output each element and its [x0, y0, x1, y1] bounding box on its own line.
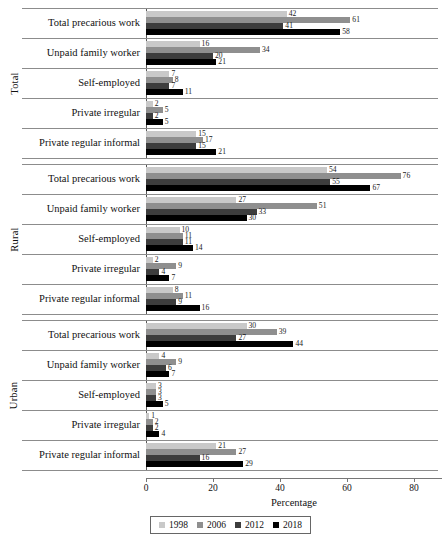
bar-2018 — [146, 59, 216, 65]
legend-item-2012[interactable]: 2012 — [235, 520, 264, 530]
bar-line: 7 — [146, 371, 442, 377]
bar-value-label: 5 — [165, 118, 169, 126]
bar-2018 — [146, 119, 163, 125]
x-axis-title: Percentage — [146, 497, 442, 508]
bar-group: 3335 — [146, 383, 442, 407]
bar-line: 21 — [146, 149, 442, 155]
legend-swatch-icon — [197, 522, 203, 528]
bar-group: 4967 — [146, 353, 442, 377]
row-separator — [22, 158, 438, 159]
row-plot-area: 2525 — [146, 98, 442, 128]
category-label: Total precarious work — [0, 174, 140, 185]
bar-2018 — [146, 275, 169, 281]
legend-label: 2018 — [283, 520, 302, 530]
bar-value-label: 7 — [171, 370, 175, 378]
panel-rural: RuralTotal precarious work54765567Unpaid… — [0, 164, 444, 314]
axis-tick-label: 0 — [144, 483, 149, 493]
legend-item-2006[interactable]: 2006 — [197, 520, 226, 530]
bar-group: 1224 — [146, 413, 442, 437]
legend-swatch-icon — [235, 522, 241, 528]
row-plot-area: 4967 — [146, 350, 442, 380]
chart-row: Total precarious work42614158 — [0, 8, 444, 38]
bar-value-label: 11 — [185, 88, 192, 96]
bar-group: 811916 — [146, 287, 442, 311]
axis-tick-label: 60 — [342, 483, 352, 493]
category-label: Private regular informal — [0, 138, 140, 149]
bar-2018 — [146, 245, 193, 251]
bar-value-label: 44 — [295, 340, 303, 348]
bar-2018 — [146, 401, 163, 407]
axis-tick-label: 80 — [409, 483, 419, 493]
bar-value-label: 5 — [165, 400, 169, 408]
legend-label: 2006 — [207, 520, 226, 530]
chart-row: Private irregular2525 — [0, 98, 444, 128]
bar-line: 7 — [146, 275, 442, 281]
legend-label: 2012 — [245, 520, 264, 530]
bar-group: 78711 — [146, 71, 442, 95]
bar-value-label: 21 — [218, 148, 226, 156]
bar-2018 — [146, 185, 370, 191]
chart-row: Private regular informal21271629 — [0, 440, 444, 470]
bar-2018 — [146, 371, 169, 377]
row-plot-area: 15171521 — [146, 128, 442, 158]
bar-group: 10111114 — [146, 227, 442, 251]
bar-line: 58 — [146, 29, 442, 35]
chart-row: Self-employed10111114 — [0, 224, 444, 254]
bar-2018 — [146, 305, 200, 311]
bar-group: 21271629 — [146, 443, 442, 467]
category-label: Self-employed — [0, 234, 140, 245]
axis-tick-label: 40 — [275, 483, 285, 493]
bar-line: 21 — [146, 59, 442, 65]
bar-group: 30392744 — [146, 323, 442, 347]
category-label: Self-employed — [0, 78, 140, 89]
row-plot-area: 2947 — [146, 254, 442, 284]
chart-row: Private regular informal15171521 — [0, 128, 444, 158]
row-plot-area: 30392744 — [146, 320, 442, 350]
row-plot-area: 16342021 — [146, 38, 442, 68]
category-label: Private irregular — [0, 264, 140, 275]
row-plot-area: 21271629 — [146, 440, 442, 470]
row-plot-area: 3335 — [146, 380, 442, 410]
bar-value-label: 29 — [245, 460, 253, 468]
bar-value-label: 30 — [249, 214, 257, 222]
row-plot-area: 1224 — [146, 410, 442, 440]
category-label: Total precarious work — [0, 18, 140, 29]
bar-value-label: 21 — [218, 58, 226, 66]
row-plot-area: 811916 — [146, 284, 442, 314]
chart-row: Self-employed78711 — [0, 68, 444, 98]
category-label: Private regular informal — [0, 294, 140, 305]
chart-row: Private irregular2947 — [0, 254, 444, 284]
bar-value-label: 4 — [161, 430, 165, 438]
bar-line: 30 — [146, 215, 442, 221]
axis-tick — [280, 478, 281, 482]
bar-2018 — [146, 431, 159, 437]
chart-row: Total precarious work54765567 — [0, 164, 444, 194]
row-separator — [22, 470, 438, 471]
bar-group: 2947 — [146, 257, 442, 281]
chart-row: Unpaid family worker27513330 — [0, 194, 444, 224]
category-label: Private irregular — [0, 108, 140, 119]
chart-row: Private irregular1224 — [0, 410, 444, 440]
panel-total: TotalTotal precarious work42614158Unpaid… — [0, 8, 444, 158]
row-plot-area: 54765567 — [146, 164, 442, 194]
bar-line: 11 — [146, 89, 442, 95]
category-label: Self-employed — [0, 390, 140, 401]
legend-item-1998[interactable]: 1998 — [159, 520, 188, 530]
x-axis: 020406080 — [146, 478, 442, 496]
bar-group: 42614158 — [146, 11, 442, 35]
category-label: Total precarious work — [0, 330, 140, 341]
category-label: Private irregular — [0, 420, 140, 431]
legend-swatch-icon — [273, 522, 279, 528]
category-label: Unpaid family worker — [0, 48, 140, 59]
grouped-bar-chart: TotalTotal precarious work42614158Unpaid… — [0, 0, 444, 535]
axis-tick — [347, 478, 348, 482]
bar-group: 27513330 — [146, 197, 442, 221]
category-label: Unpaid family worker — [0, 360, 140, 371]
bar-2018 — [146, 215, 247, 221]
row-plot-area: 10111114 — [146, 224, 442, 254]
legend-item-2018[interactable]: 2018 — [273, 520, 302, 530]
bar-group: 15171521 — [146, 131, 442, 155]
chart-row: Self-employed3335 — [0, 380, 444, 410]
bar-group: 2525 — [146, 101, 442, 125]
bar-2018 — [146, 461, 243, 467]
